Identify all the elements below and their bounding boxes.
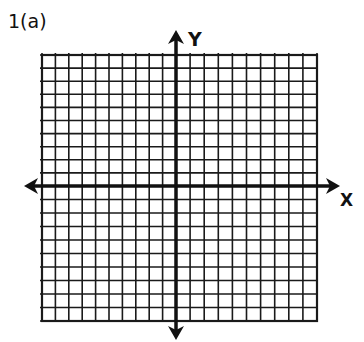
coordinate-plane — [0, 0, 364, 342]
x-axis-label: X — [340, 190, 353, 210]
problem-label: 1(a) — [8, 10, 47, 32]
y-axis-label: Y — [188, 28, 202, 50]
x-axis — [24, 178, 340, 194]
